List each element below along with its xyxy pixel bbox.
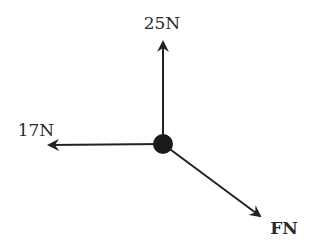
force-diagram: 25N 17N FN — [0, 0, 314, 250]
force-label-left: 17N — [18, 120, 55, 140]
force-label-up: 25N — [144, 13, 181, 33]
force-label-down-right: FN — [270, 218, 298, 238]
force-arrow-down-right — [163, 144, 260, 216]
point-mass — [153, 134, 173, 154]
force-arrow-left — [49, 144, 163, 145]
